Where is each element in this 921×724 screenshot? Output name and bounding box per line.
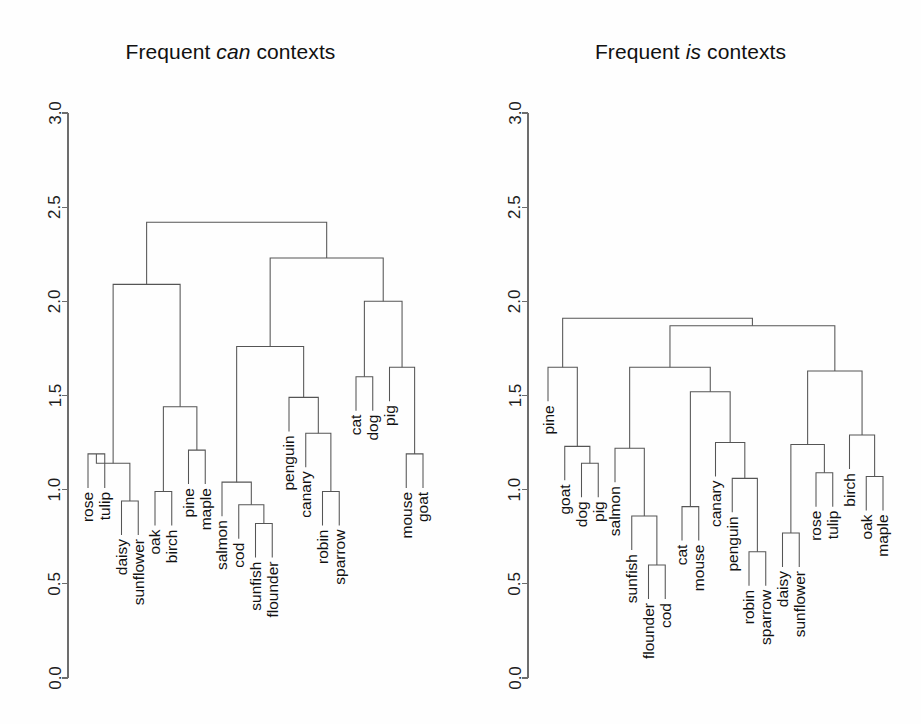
dendrogram-leaf-label: canary [297, 471, 314, 518]
dendrogram-leaf-label: maple [197, 488, 214, 530]
dendrogram-link [783, 533, 800, 567]
dendrogram-leaf-label: maple [875, 514, 892, 556]
dendrogram-leaf-label: daisy [774, 571, 791, 607]
dendrogram-links [548, 318, 883, 599]
dendrogram-leaf-label: penguin [724, 516, 741, 571]
dendrogram-leaf-label: oak [147, 529, 164, 554]
y-axis-tick-label: 3.0 [46, 101, 65, 125]
dendrogram-panel-can: Frequent can contexts 3.02.52.01.51.00.5… [0, 0, 461, 724]
dendrogram-link [289, 397, 318, 433]
dendrogram-leaf-label: sunfish [247, 562, 264, 611]
dendrogram-link [850, 435, 875, 476]
dendrogram-link [147, 222, 327, 284]
dendrogram-leaf-label: mouse [690, 545, 707, 592]
dendrogram-leaf-label: cat [348, 414, 365, 435]
dendrogram-leaf-label: pine [180, 488, 197, 517]
figure-canvas: Frequent can contexts 3.02.52.01.51.00.5… [0, 0, 921, 724]
dendrogram-leaf-label: sunflower [130, 539, 147, 605]
dendrogram-leaf-label: birch [163, 530, 180, 564]
dendrogram-leaf-label: daisy [113, 539, 130, 575]
dendrogram-link [356, 377, 373, 411]
dendrogram-leaf-label: sparrow [757, 589, 774, 645]
dendrogram-panel-is: Frequent is contexts 3.02.52.01.51.00.50… [460, 0, 921, 724]
dendrogram-leaf-label: tulip [96, 492, 113, 520]
dendrogram-leaf-label: robin [314, 530, 331, 564]
dendrogram-leaf-label: sunfish [623, 554, 640, 603]
dendrogram-link [670, 326, 835, 371]
y-axis-tick-label: 3.0 [506, 101, 525, 125]
dendrogram-leaf-label: sunflower [791, 571, 808, 637]
dendrogram-link [222, 482, 251, 516]
dendrogram-leaf-label: rose [808, 511, 825, 541]
dendrogram-link [816, 473, 833, 507]
dendrogram-leaf-label: salmon [607, 486, 624, 536]
y-axis-tick-label: 2.5 [506, 195, 525, 219]
leaf-labels: rosetulipdaisysunfloweroakbirchpinemaple… [80, 405, 432, 617]
dendrogram-leaf-label: dog [364, 415, 381, 441]
dendrogram-link [749, 552, 766, 586]
dendrogram-leaf-label: cat [674, 544, 691, 565]
y-axis-tick-label: 2.5 [46, 195, 65, 219]
y-axis-tick-label: 0.0 [506, 666, 525, 690]
dendrogram-leaf-label: dog [573, 501, 590, 527]
dendrogram-plot-can: 3.02.52.01.51.00.50.0rosetulipdaisysunfl… [0, 0, 461, 724]
dendrogram-leaf-label: goat [556, 484, 573, 515]
y-axis-tick-label: 0.5 [506, 572, 525, 596]
dendrogram-leaf-label: goat [415, 491, 432, 522]
dendrogram-link [270, 258, 383, 347]
dendrogram-leaf-label: flounder [264, 562, 281, 618]
dendrogram-link [189, 450, 206, 484]
dendrogram-leaf-label: pig [381, 405, 398, 426]
y-axis-tick-label: 1.0 [46, 478, 65, 502]
dendrogram-link [113, 284, 180, 463]
dendrogram-leaf-label: cod [657, 603, 674, 628]
dendrogram-leaf-label: pig [590, 501, 607, 522]
dendrogram-link [808, 371, 862, 444]
y-axis-tick-label: 1.5 [506, 384, 525, 408]
y-axis: 3.02.52.01.51.00.50.0 [506, 101, 529, 690]
dendrogram-link [256, 524, 273, 558]
dendrogram-leaf-label: oak [858, 514, 875, 539]
dendrogram-leaf-label: mouse [398, 492, 415, 539]
dendrogram-leaf-label: pine [540, 405, 557, 434]
dendrogram-link [582, 463, 599, 497]
y-axis-tick-label: 2.0 [46, 290, 65, 314]
y-axis-tick-label: 0.0 [46, 666, 65, 690]
dendrogram-leaf-label: penguin [281, 435, 298, 490]
dendrogram-leaf-label: rose [80, 492, 97, 522]
dendrogram-link [323, 492, 340, 526]
dendrogram-leaf-label: cod [230, 543, 247, 568]
dendrogram-plot-is: 3.02.52.01.51.00.50.0pinegoatdogpigsalmo… [460, 0, 921, 724]
dendrogram-leaf-label: robin [741, 590, 758, 624]
y-axis-tick-label: 0.5 [46, 572, 65, 596]
dendrogram-links [88, 222, 423, 557]
dendrogram-link [122, 501, 139, 535]
dendrogram-link [239, 505, 264, 539]
y-axis: 3.02.52.01.51.00.50.0 [46, 101, 69, 690]
dendrogram-link [364, 301, 402, 376]
dendrogram-link [649, 565, 666, 599]
dendrogram-leaf-label: sparrow [331, 529, 348, 585]
dendrogram-leaf-label: salmon [214, 520, 231, 570]
y-axis-tick-label: 1.0 [506, 478, 525, 502]
dendrogram-link [716, 443, 745, 479]
dendrogram-link [406, 454, 423, 488]
dendrogram-link [630, 367, 711, 448]
dendrogram-link [682, 507, 699, 541]
dendrogram-link [866, 476, 883, 510]
y-axis-tick-label: 1.5 [46, 384, 65, 408]
dendrogram-link [163, 407, 197, 492]
dendrogram-leaf-label: flounder [640, 603, 657, 659]
dendrogram-leaf-label: birch [841, 473, 858, 507]
y-axis-tick-label: 2.0 [506, 290, 525, 314]
dendrogram-link [155, 492, 172, 526]
dendrogram-leaf-label: canary [707, 480, 724, 527]
dendrogram-leaf-label: tulip [824, 511, 841, 539]
